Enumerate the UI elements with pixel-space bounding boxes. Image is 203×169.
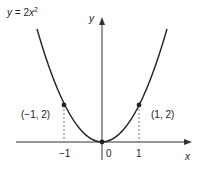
- x-axis-label: x: [184, 151, 191, 162]
- point-label-pos1: (1, 2): [151, 109, 174, 120]
- tick-pos1: 1: [136, 148, 142, 159]
- equation-label: y = 2x2: [6, 6, 38, 18]
- y-axis-label: y: [88, 13, 95, 24]
- y-axis-arrow-icon: [99, 17, 105, 25]
- point-1-2: [137, 103, 142, 108]
- x-axis-arrow-icon: [184, 139, 192, 145]
- origin-point: [100, 140, 105, 145]
- point-label-neg1: (−1, 2): [21, 109, 50, 120]
- parabola-diagram: y = 2x2 y x −1 0 1 (−1, 2) (1, 2): [0, 0, 203, 169]
- tick-zero: 0: [106, 148, 112, 159]
- tick-neg1: −1: [59, 148, 71, 159]
- point-neg1-2: [62, 103, 67, 108]
